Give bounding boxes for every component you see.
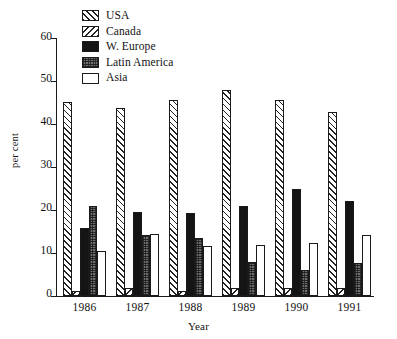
- bar-weurope-1986[interactable]: [80, 228, 89, 295]
- bar-weurope-1989[interactable]: [239, 206, 248, 296]
- y-tick-label: 0: [46, 288, 52, 300]
- bar-weurope-1990[interactable]: [292, 189, 301, 296]
- y-tick-label: 10: [41, 245, 53, 257]
- bar-usa-1990[interactable]: [275, 100, 284, 295]
- x-tick-label-1987: 1987: [116, 302, 159, 314]
- canada-swatch: [82, 26, 99, 37]
- bar-asia-1990[interactable]: [309, 243, 318, 296]
- legend-item-latam[interactable]: Latin America: [82, 55, 173, 71]
- x-axis-line: [56, 296, 374, 297]
- legend-item-weurope[interactable]: W. Europe: [82, 39, 173, 55]
- y-tick-label: 30: [41, 159, 53, 171]
- asia-swatch: [82, 73, 99, 84]
- y-tick-label: 40: [41, 116, 53, 128]
- x-tick-label-1991: 1991: [328, 302, 371, 314]
- legend-item-label: Canada: [106, 26, 141, 38]
- bar-chart: USACanadaW. EuropeLatin AmericaAsia per …: [0, 0, 397, 339]
- bar-canada-1990[interactable]: [284, 288, 293, 295]
- latam-swatch: [82, 57, 99, 68]
- bar-latam-1988[interactable]: [195, 238, 204, 296]
- bar-latam-1990[interactable]: [301, 270, 310, 296]
- bar-usa-1989[interactable]: [222, 90, 231, 295]
- bar-latam-1989[interactable]: [248, 262, 257, 296]
- bar-group-1989: 1989: [222, 38, 265, 296]
- bar-usa-1988[interactable]: [169, 100, 178, 296]
- bar-usa-1991[interactable]: [328, 112, 337, 295]
- bar-usa-1986[interactable]: [63, 102, 72, 295]
- bar-asia-1988[interactable]: [203, 246, 212, 296]
- legend-item-label: Asia: [106, 72, 127, 84]
- bar-group-1991: 1991: [328, 38, 371, 296]
- y-axis-label: per cent: [9, 133, 20, 168]
- usa-swatch: [82, 10, 99, 21]
- legend-item-label: W. Europe: [106, 41, 156, 53]
- x-tick-label-1989: 1989: [222, 302, 265, 314]
- y-tick-label: 50: [41, 73, 53, 85]
- bar-canada-1988[interactable]: [178, 291, 187, 296]
- y-tick-label: 20: [41, 202, 53, 214]
- bar-weurope-1988[interactable]: [186, 213, 195, 295]
- legend-item-asia[interactable]: Asia: [82, 70, 173, 86]
- weurope-swatch: [82, 41, 99, 52]
- bar-asia-1986[interactable]: [97, 251, 106, 295]
- bar-latam-1986[interactable]: [89, 206, 98, 296]
- bar-asia-1987[interactable]: [150, 234, 159, 296]
- bar-weurope-1987[interactable]: [133, 212, 142, 296]
- bar-group-1990: 1990: [275, 38, 318, 296]
- legend-item-label: USA: [106, 10, 129, 22]
- legend-item-usa[interactable]: USA: [82, 8, 173, 24]
- bar-latam-1987[interactable]: [142, 235, 151, 296]
- x-tick-label-1988: 1988: [169, 302, 212, 314]
- bar-latam-1991[interactable]: [354, 263, 363, 296]
- x-axis-label: Year: [0, 320, 397, 332]
- x-tick-label-1990: 1990: [275, 302, 318, 314]
- x-tick-label-1986: 1986: [63, 302, 106, 314]
- legend-item-canada[interactable]: Canada: [82, 24, 173, 40]
- bar-canada-1991[interactable]: [337, 288, 346, 296]
- legend-item-label: Latin America: [106, 57, 173, 69]
- bar-usa-1987[interactable]: [116, 108, 125, 295]
- bar-canada-1987[interactable]: [125, 288, 134, 296]
- bar-canada-1989[interactable]: [231, 288, 240, 295]
- chart-legend: USACanadaW. EuropeLatin AmericaAsia: [82, 8, 173, 86]
- bar-asia-1991[interactable]: [362, 235, 371, 296]
- bar-asia-1989[interactable]: [256, 245, 265, 296]
- y-tick-label: 60: [41, 31, 53, 43]
- bar-canada-1986[interactable]: [72, 291, 81, 296]
- bar-weurope-1991[interactable]: [345, 201, 354, 296]
- bar-group-1988: 1988: [169, 38, 212, 296]
